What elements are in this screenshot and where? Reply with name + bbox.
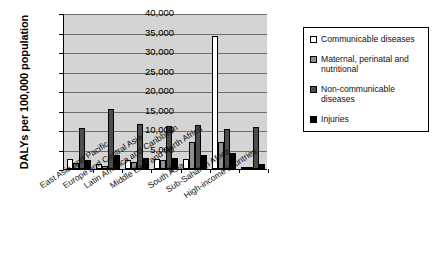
y-axis-tick-mark — [59, 14, 63, 15]
bar[interactable] — [230, 153, 236, 169]
legend-label: Communicable diseases — [321, 34, 415, 45]
bar-group — [93, 14, 122, 169]
y-axis-tick-mark — [59, 131, 63, 132]
legend-item[interactable]: Injuries — [310, 114, 423, 125]
legend-label: Non-communicable diseases — [321, 84, 423, 105]
bar-group — [210, 14, 239, 169]
y-axis-title: DALYs per 100,000 population — [18, 6, 30, 178]
bar[interactable] — [143, 158, 149, 169]
x-axis-tick-mark — [151, 169, 152, 173]
bar-group — [64, 14, 93, 169]
legend-item[interactable]: Non-communicable diseases — [310, 84, 423, 105]
bar-chart: DALYs per 100,000 population 40,00035,00… — [0, 0, 442, 253]
legend-item[interactable]: Communicable diseases — [310, 34, 423, 45]
legend-label: Injuries — [321, 114, 349, 125]
bar-group — [239, 14, 268, 169]
legend-swatch-icon — [310, 86, 317, 93]
bar-group — [181, 14, 210, 169]
y-axis-tick-mark — [59, 92, 63, 93]
bar[interactable] — [85, 160, 91, 169]
bar[interactable] — [259, 164, 265, 169]
legend-item[interactable]: Maternal, perinatal and nutritional — [310, 54, 423, 75]
y-axis-tick-mark — [59, 170, 63, 171]
x-axis-tick-mark — [93, 169, 94, 173]
bar[interactable] — [114, 155, 120, 169]
legend-swatch-icon — [310, 36, 317, 43]
y-axis-tick-mark — [59, 112, 63, 113]
bar[interactable] — [253, 127, 259, 170]
y-axis-tick-mark — [59, 73, 63, 74]
legend-swatch-icon — [310, 116, 317, 123]
y-axis-tick-mark — [59, 53, 63, 54]
chart-legend: Communicable diseasesMaternal, perinatal… — [303, 27, 429, 132]
y-axis-tick-mark — [59, 151, 63, 152]
x-axis-tick-mark — [268, 169, 269, 173]
legend-swatch-icon — [310, 56, 317, 63]
x-axis-tick-mark — [181, 169, 182, 173]
x-axis-tick-mark — [239, 169, 240, 173]
legend-label: Maternal, perinatal and nutritional — [321, 54, 423, 75]
x-axis-tick-mark — [122, 169, 123, 173]
x-axis-tick-mark — [210, 169, 211, 173]
bar[interactable] — [201, 155, 207, 169]
y-axis-tick-mark — [59, 34, 63, 35]
